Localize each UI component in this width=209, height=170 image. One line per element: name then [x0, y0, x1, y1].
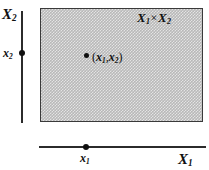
vertical-axis-line — [21, 11, 23, 123]
horizontal-tick-label-subscript: 1 — [86, 157, 90, 166]
horizontal-axis-tick-dot — [83, 144, 89, 150]
vertical-axis-tick-dot — [19, 50, 25, 56]
ordered-pair-first-subscript: 1 — [102, 56, 106, 65]
ordered-pair-close-paren: ) — [118, 50, 122, 64]
horizontal-axis-label-subscript: 1 — [188, 158, 193, 168]
horizontal-axis-label-base: X — [178, 151, 188, 167]
vertical-axis-label: X2 — [2, 7, 17, 22]
cartesian-product-figure: X1×X2 (x1,x2) X2 x2 x1 X1 — [0, 0, 209, 170]
horizontal-axis-label: X1 — [178, 152, 193, 167]
product-label-x1-subscript: 1 — [146, 17, 150, 26]
ordered-pair-point-dot — [84, 53, 89, 58]
ordered-pair-second-subscript: 2 — [115, 56, 119, 65]
ordered-pair-second-base: x — [109, 50, 115, 64]
horizontal-axis-tick-label: x1 — [80, 152, 90, 164]
vertical-tick-label-subscript: 2 — [9, 52, 13, 61]
product-label-times-symbol: × — [150, 11, 158, 25]
product-label-x2-subscript: 2 — [167, 17, 171, 26]
ordered-pair-label: (x1,x2) — [92, 51, 122, 63]
product-region-label: X1×X2 — [137, 11, 171, 24]
vertical-axis-tick-label: x2 — [3, 47, 13, 59]
product-label-x2-base: X — [158, 10, 167, 25]
vertical-axis-label-base: X — [2, 6, 12, 22]
vertical-axis-label-subscript: 2 — [12, 13, 17, 23]
product-region-rectangle — [40, 8, 203, 122]
product-label-x1-base: X — [137, 10, 146, 25]
horizontal-axis-line — [39, 146, 206, 148]
